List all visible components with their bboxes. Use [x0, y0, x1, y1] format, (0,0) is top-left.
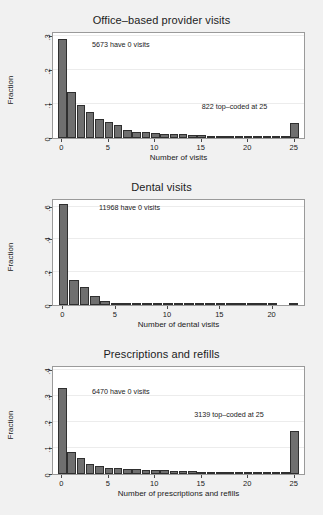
y-tick-label: 0	[43, 473, 52, 477]
x-tick	[108, 139, 109, 142]
y-tick-label: .2	[43, 69, 52, 75]
x-tick-label: 25	[290, 143, 298, 152]
bar	[95, 119, 104, 138]
bar	[253, 472, 262, 474]
chart-panel-prescriptions-and-refills: Prescriptions and refills Fraction 0.1.2…	[0, 342, 323, 507]
bar	[142, 303, 152, 305]
x-tick	[167, 306, 168, 309]
plot-area: 5673 have 0 visits822 top–coded at 25	[52, 32, 305, 139]
x-tick-label: 0	[60, 310, 64, 319]
bar	[236, 303, 246, 305]
bar	[86, 112, 95, 138]
x-tick	[154, 475, 155, 478]
x-tick-label: 20	[243, 143, 251, 152]
x-tick-label: 10	[150, 479, 158, 488]
chart-title: Dental visits	[0, 181, 323, 193]
bar	[216, 136, 225, 138]
bar	[123, 469, 132, 474]
y-tick-label: .2	[43, 420, 52, 426]
bar	[263, 136, 272, 138]
x-axis-label: Number of visits	[52, 153, 305, 162]
x-tick-label: 0	[59, 479, 63, 488]
bar	[105, 122, 114, 138]
bar	[163, 303, 173, 305]
y-tick-label: 0	[43, 304, 52, 308]
x-tick	[108, 475, 109, 478]
bar	[132, 469, 141, 474]
bar	[67, 452, 76, 474]
bar	[67, 92, 76, 138]
bar	[226, 303, 236, 305]
bar	[216, 303, 226, 305]
bar	[80, 287, 90, 305]
plot-area: 6470 have 0 visits3139 top–coded at 25	[52, 366, 305, 475]
bar	[90, 296, 100, 305]
chart-annotation: 822 top–coded at 25	[202, 102, 268, 111]
x-tick-label: 20	[243, 479, 251, 488]
bar	[225, 136, 234, 138]
bar	[132, 303, 142, 305]
y-axis-label: Fraction	[6, 75, 15, 104]
x-tick-label: 5	[113, 310, 117, 319]
x-tick-label: 5	[106, 479, 110, 488]
bar	[114, 468, 123, 474]
bar	[205, 303, 215, 305]
x-tick-label: 10	[163, 310, 171, 319]
x-tick	[247, 139, 248, 142]
bar	[151, 470, 160, 474]
bar	[216, 472, 225, 474]
bar	[289, 303, 299, 305]
bar	[272, 472, 281, 474]
bar	[142, 132, 151, 138]
bar	[225, 472, 234, 474]
y-axis-label: Fraction	[6, 242, 15, 271]
figure-page: Office–based provider visits Fraction 0.…	[0, 0, 323, 515]
bar	[290, 123, 299, 138]
bar-series	[53, 33, 304, 138]
x-tick-label: 15	[197, 143, 205, 152]
bar	[244, 472, 253, 474]
bar	[100, 301, 110, 305]
chart-annotation: 3139 top–coded at 25	[194, 410, 264, 419]
bar	[247, 303, 257, 305]
bar	[123, 130, 132, 138]
chart-panel-office-based-provider-visits: Office–based provider visits Fraction 0.…	[0, 8, 323, 171]
bar	[290, 431, 299, 474]
x-tick-label: 10	[150, 143, 158, 152]
y-tick-label: .3	[43, 35, 52, 41]
y-tick-label: .1	[43, 446, 52, 452]
chart-annotation: 6470 have 0 visits	[92, 387, 150, 396]
plot-area: 11968 have 0 visits	[52, 199, 305, 306]
x-tick-label: 15	[197, 479, 205, 488]
x-axis-label: Number of dental visits	[52, 320, 305, 329]
bar	[188, 471, 197, 474]
y-tick-label: .2	[43, 271, 52, 277]
bar	[105, 468, 114, 474]
bar	[235, 472, 244, 474]
y-tick-label: 0	[43, 137, 52, 141]
bar	[263, 472, 272, 474]
bar	[153, 303, 163, 305]
bar	[281, 472, 290, 474]
bar	[58, 39, 67, 138]
y-axis-label: Fraction	[6, 410, 15, 439]
bar	[77, 458, 86, 474]
bar-series	[53, 200, 304, 305]
bar	[114, 125, 123, 138]
bar	[174, 303, 184, 305]
bar	[184, 303, 194, 305]
bar	[235, 136, 244, 138]
bar	[160, 134, 169, 138]
bar	[86, 464, 95, 474]
bar	[179, 134, 188, 138]
bar	[95, 466, 104, 474]
y-tick-label: .3	[43, 394, 52, 400]
chart-title: Office–based provider visits	[0, 14, 323, 26]
bar	[121, 303, 131, 305]
x-tick	[62, 306, 63, 309]
x-tick	[272, 306, 273, 309]
bar	[142, 470, 151, 474]
chart-annotation: 11968 have 0 visits	[99, 203, 160, 212]
x-tick	[61, 139, 62, 142]
chart-annotation: 5673 have 0 visits	[92, 40, 150, 49]
